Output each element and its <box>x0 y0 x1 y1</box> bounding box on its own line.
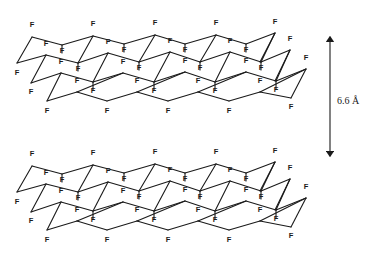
fluorine-atom-label: F <box>137 63 142 72</box>
fluorine-atom-label: F <box>59 57 64 66</box>
fluorine-atom-label: F <box>121 57 126 66</box>
fluorine-atom-label: F <box>105 235 110 244</box>
c-c-bond <box>260 69 306 92</box>
interlayer-spacing-label: 6.6 Å <box>337 95 359 106</box>
fluorine-atom-label: F <box>75 205 80 214</box>
c-c-bond <box>77 73 123 92</box>
fluorine-atom-label: F <box>196 76 201 85</box>
fluorine-atom-label: F <box>168 165 173 174</box>
fluorine-atom-label: F <box>289 231 294 240</box>
fluorine-atom-label: F <box>105 106 110 115</box>
fluorine-atom-label: F <box>121 186 126 195</box>
fluorine-atom-label: F <box>304 53 309 62</box>
fluorine-atom-label: F <box>213 215 218 224</box>
bottom-layer: FFFFFFFFFFFFFFFFFFFFFFFFFFFFFFFFFFFFFF <box>15 146 309 244</box>
fluorine-atom-label: F <box>44 39 49 48</box>
fluorine-atom-label: F <box>228 165 233 174</box>
fluorine-atom-label: F <box>152 215 157 224</box>
fluorine-atom-label: F <box>76 64 81 73</box>
fluorine-atom-label: F <box>59 186 64 195</box>
fluorine-atom-label: F <box>91 148 96 157</box>
fluorine-atom-label: F <box>45 235 50 244</box>
c-c-bond <box>107 221 137 230</box>
fluorine-atom-label: F <box>198 192 203 201</box>
fluorine-atom-label: F <box>273 17 278 26</box>
fluorine-atom-label: F <box>258 205 263 214</box>
fluorine-atom-label: F <box>183 45 188 54</box>
fluorine-atom-label: F <box>30 20 35 29</box>
fluorine-atom-label: F <box>168 36 173 45</box>
fluorine-atom-label: F <box>183 56 188 65</box>
c-c-bond <box>47 92 77 101</box>
c-c-bond <box>198 201 246 221</box>
fluorine-atom-label: F <box>244 56 249 65</box>
c-c-bond <box>137 201 185 221</box>
top-layer: FFFFFFFFFFFFFFFFFFFFFFFFFFFFFFFFFFFFFF <box>15 17 309 115</box>
fluorine-atom-label: F <box>183 174 188 183</box>
fluorine-atom-label: F <box>288 163 293 172</box>
fluorine-atom-label: F <box>122 45 127 54</box>
fluorine-atom-label: F <box>166 106 171 115</box>
fluorine-atom-label: F <box>214 147 219 156</box>
fluorine-atom-label: F <box>76 193 81 202</box>
fluorine-atom-label: F <box>135 76 140 85</box>
fluorine-atom-label: F <box>60 46 65 55</box>
fluorine-atom-label: F <box>106 166 111 175</box>
fluorine-atom-label: F <box>214 18 219 27</box>
fluorine-atom-label: F <box>196 205 201 214</box>
fluorine-atom-label: F <box>91 19 96 28</box>
fluorine-atom-label: F <box>45 106 50 115</box>
c-c-bond <box>77 202 123 221</box>
fluorine-atom-label: F <box>259 63 264 72</box>
cf-layer-structure-diagram: FFFFFFFFFFFFFFFFFFFFFFFFFFFFFFFFFFFFFFFF… <box>0 0 371 258</box>
fluorine-atom-label: F <box>258 76 263 85</box>
fluorine-atom-label: F <box>30 149 35 158</box>
fluorine-atom-label: F <box>274 214 279 223</box>
fluorine-atom-label: F <box>135 205 140 214</box>
fluorine-atom-label: F <box>244 185 249 194</box>
fluorine-atom-label: F <box>183 185 188 194</box>
c-c-bond <box>198 72 246 92</box>
fluorine-atom-label: F <box>166 235 171 244</box>
fluorine-atom-label: F <box>15 68 20 77</box>
fluorine-atom-label: F <box>137 192 142 201</box>
fluorine-atom-label: F <box>228 36 233 45</box>
fluorine-atom-label: F <box>29 87 34 96</box>
fluorine-atom-label: F <box>227 235 232 244</box>
fluorine-atom-label: F <box>289 102 294 111</box>
c-c-bond <box>107 92 137 101</box>
fluorine-atom-label: F <box>259 192 264 201</box>
c-c-bond <box>260 198 306 221</box>
fluorine-atom-label: F <box>152 86 157 95</box>
fluorine-atom-label: F <box>15 197 20 206</box>
fluorine-atom-label: F <box>91 86 96 95</box>
c-c-bond <box>229 221 260 230</box>
fluorine-atom-label: F <box>153 18 158 27</box>
fluorine-atom-label: F <box>244 174 249 183</box>
fluorine-atom-label: F <box>60 175 65 184</box>
fluorine-atom-label: F <box>227 106 232 115</box>
fluorine-atom-label: F <box>106 37 111 46</box>
fluorinated-layers: FFFFFFFFFFFFFFFFFFFFFFFFFFFFFFFFFFFFFFFF… <box>15 17 309 244</box>
fluorine-atom-label: F <box>153 147 158 156</box>
c-c-bond <box>168 92 198 101</box>
fluorine-atom-label: F <box>198 63 203 72</box>
c-c-bond <box>47 221 77 230</box>
fluorine-atom-label: F <box>304 182 309 191</box>
fluorine-atom-label: F <box>273 146 278 155</box>
c-c-bond <box>168 221 198 230</box>
fluorine-atom-label: F <box>274 85 279 94</box>
fluorine-atom-label: F <box>44 168 49 177</box>
fluorine-atom-label: F <box>122 174 127 183</box>
fluorine-atom-label: F <box>244 45 249 54</box>
c-c-bond <box>229 92 260 101</box>
fluorine-atom-label: F <box>91 215 96 224</box>
fluorine-atom-label: F <box>213 86 218 95</box>
c-c-bond <box>137 72 185 92</box>
fluorine-atom-label: F <box>29 216 34 225</box>
fluorine-atom-label: F <box>75 76 80 85</box>
fluorine-atom-label: F <box>288 34 293 43</box>
